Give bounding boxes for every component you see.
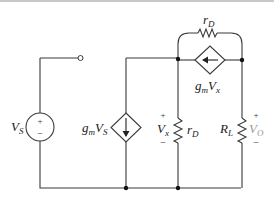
rl-label: RL: [219, 121, 233, 138]
junction-dot: [240, 58, 244, 62]
vx-plus: +: [160, 110, 165, 120]
vo-minus: −: [253, 137, 259, 148]
wire-rd-top-left: [178, 33, 198, 58]
rd-mid-label: rD: [187, 122, 199, 139]
vs-minus: −: [37, 128, 43, 139]
gmvx-label: gmVx: [195, 78, 220, 95]
wire-ground-bottom: [40, 141, 241, 188]
gmvs-label: gmVS: [82, 120, 108, 137]
junction-dot: [176, 186, 180, 190]
vx-label: Vx: [157, 121, 169, 138]
vs-plus: +: [37, 116, 42, 126]
dependent-current-source-gmvs: [111, 113, 141, 142]
resistor-rl: [238, 118, 246, 143]
vx-minus: −: [160, 137, 166, 148]
open-terminal: [78, 56, 83, 61]
dependent-current-source-gmvx: [195, 46, 225, 74]
vo-plus: +: [253, 110, 258, 120]
junction-dot: [176, 57, 180, 61]
resistor-rd-top: [198, 29, 217, 37]
rd-top-label: rD: [203, 12, 215, 29]
vo-label: VO: [249, 121, 264, 138]
resistor-rd-mid: [174, 118, 182, 143]
junction-dot: [124, 186, 128, 190]
voltage-source-vs: + −: [26, 113, 54, 141]
vs-label: VS: [11, 119, 24, 136]
circuit-diagram: + − VS gmVS rD gmVx rD + Vx − RL + VO −: [0, 0, 274, 204]
